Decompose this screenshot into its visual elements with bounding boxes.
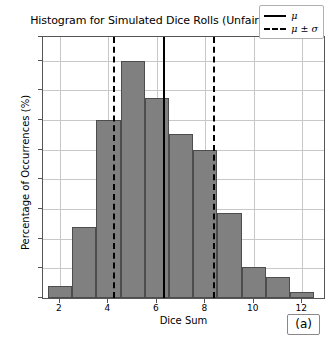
y-tick-mark	[38, 208, 42, 209]
x-tick-label: 10	[238, 303, 268, 313]
x-tick-label: 4	[92, 303, 122, 313]
x-tick-label: 2	[44, 303, 74, 313]
y-tick-mark	[38, 297, 42, 298]
x-tick-label: 8	[189, 303, 219, 313]
legend-item-mu: μ	[264, 9, 318, 22]
y-tick-mark	[38, 89, 42, 90]
histogram-bar	[242, 267, 266, 298]
x-tick-label: 12	[286, 303, 316, 313]
legend-solid-line-icon	[264, 11, 286, 21]
gridline-horizontal	[43, 120, 324, 121]
x-tick-mark	[253, 299, 254, 303]
chart-legend: μ μ ± σ	[259, 5, 324, 39]
gridline-horizontal	[43, 90, 324, 91]
x-tick-mark	[107, 299, 108, 303]
legend-label-mu-sigma: μ ± σ	[291, 23, 318, 34]
y-tick-mark	[38, 149, 42, 150]
histogram-bar	[121, 61, 145, 298]
x-tick-mark	[301, 299, 302, 303]
x-tick-mark	[156, 299, 157, 303]
histogram-bar	[72, 227, 96, 298]
x-tick-mark	[59, 299, 60, 303]
histogram-bar	[169, 134, 193, 298]
y-tick-mark	[38, 36, 42, 37]
panel-label: (a)	[287, 314, 320, 335]
histogram-bar	[145, 98, 169, 298]
y-axis-label: Percentage of Occurrences (%)	[20, 48, 31, 298]
plot-area	[42, 36, 325, 299]
y-tick-mark	[38, 238, 42, 239]
legend-dashed-line-icon	[264, 24, 286, 34]
legend-label-mu: μ	[291, 10, 297, 21]
y-tick-mark	[38, 178, 42, 179]
gridline-vertical	[254, 37, 255, 298]
histogram-bar	[48, 286, 72, 298]
y-tick-mark	[38, 267, 42, 268]
mu-plus-sigma-line	[213, 37, 215, 298]
mu-line	[163, 37, 165, 298]
gridline-vertical	[60, 37, 61, 298]
histogram-bar	[266, 277, 290, 298]
y-tick-mark	[38, 119, 42, 120]
y-tick-mark	[38, 60, 42, 61]
gridline-horizontal	[43, 61, 324, 62]
histogram-bar	[96, 120, 120, 298]
mu-minus-sigma-line	[113, 37, 115, 298]
gridline-vertical	[302, 37, 303, 298]
histogram-bar	[290, 292, 314, 298]
x-tick-mark	[204, 299, 205, 303]
x-tick-label: 6	[141, 303, 171, 313]
legend-item-mu-sigma: μ ± σ	[264, 22, 318, 35]
x-axis-label: Dice Sum	[42, 315, 325, 326]
histogram-figure: Histogram for Simulated Dice Rolls (Unfa…	[0, 0, 330, 345]
histogram-bar	[217, 213, 241, 298]
